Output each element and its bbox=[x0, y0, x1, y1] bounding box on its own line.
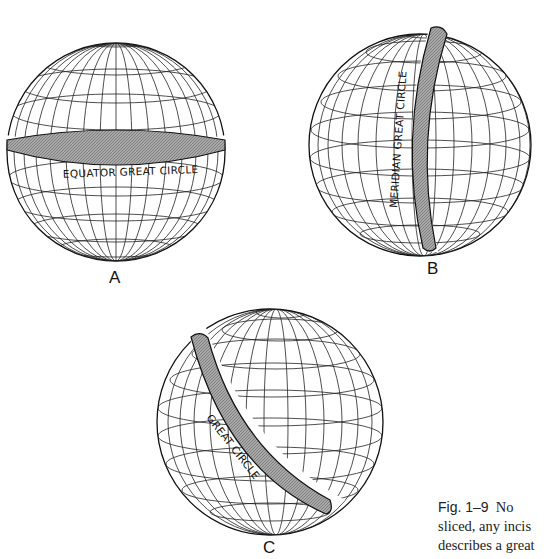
caption-line2: sliced, any incis bbox=[438, 517, 551, 536]
figure-number: Fig. 1–9 bbox=[438, 499, 489, 515]
great-circles-diagram: EQUATOR GREAT CIRCLE MERIDIAN GREAT CIRC… bbox=[0, 0, 551, 559]
globe-b: MERIDIAN GREAT CIRCLE bbox=[309, 26, 531, 256]
caption-line3: describes a great bbox=[438, 536, 551, 555]
label-a: A bbox=[109, 268, 120, 288]
figure-caption: Fig. 1–9 No sliced, any incis describes … bbox=[438, 498, 551, 555]
globe-a: EQUATOR GREAT CIRCLE bbox=[4, 10, 228, 262]
label-c: C bbox=[263, 538, 275, 558]
label-b: B bbox=[427, 259, 438, 279]
caption-line1: No bbox=[496, 499, 514, 515]
globe-c: GREAT CIRCLE bbox=[157, 306, 384, 535]
